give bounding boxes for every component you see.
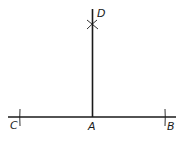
diagram-svg: D C A B (0, 0, 183, 149)
point-label-a: A (87, 120, 96, 133)
point-label-c: C (10, 119, 18, 132)
point-label-d: D (97, 7, 105, 20)
construction-diagram: D C A B (0, 0, 183, 149)
point-label-b: B (167, 120, 175, 133)
